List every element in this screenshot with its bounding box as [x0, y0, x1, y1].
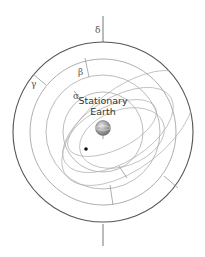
- label-beta: β: [78, 67, 83, 77]
- tilted-orbit-2: [48, 70, 187, 190]
- connector-lower-1: [119, 166, 127, 178]
- earth-label-line1: Stationary: [78, 95, 128, 106]
- tilted-orbit-4: [71, 97, 173, 180]
- connector-lower-3: [164, 176, 178, 188]
- earth-icon: [96, 121, 111, 140]
- tilted-orbit-3: [42, 48, 205, 207]
- earth-label-line2: Earth: [90, 106, 115, 117]
- label-delta: δ: [95, 25, 100, 35]
- label-gamma: γ: [31, 79, 36, 89]
- planet-dot: [84, 147, 88, 151]
- geocentric-diagram: δ γ β α Stationary Earth: [0, 0, 205, 257]
